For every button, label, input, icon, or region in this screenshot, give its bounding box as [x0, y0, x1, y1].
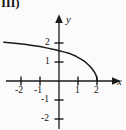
plot-canvas — [0, 0, 126, 130]
figure-container: III) y x -2 -1 1 2 2 1 -1 -2 — [0, 0, 126, 130]
x-axis-label: x — [117, 75, 122, 87]
y-tick-label--1: -1 — [41, 94, 49, 104]
x-tick-label-2: 2 — [94, 85, 99, 95]
x-tick-label-1: 1 — [75, 85, 80, 95]
x-tick-label--2: -2 — [15, 85, 23, 95]
y-axis-label: y — [66, 13, 71, 25]
y-tick-label-2: 2 — [45, 37, 50, 47]
y-tick-label-1: 1 — [45, 56, 50, 66]
y-tick-label--2: -2 — [41, 113, 49, 123]
curve-path — [4, 42, 97, 81]
